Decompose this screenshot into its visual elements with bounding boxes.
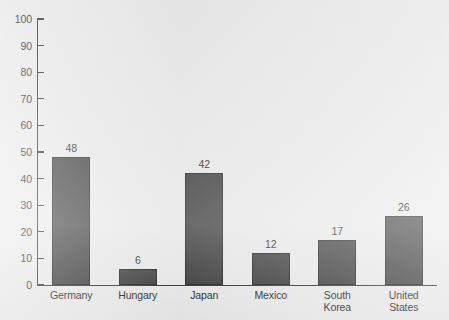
y-axis-tick: [38, 98, 44, 99]
x-axis-category-label: Mexico: [238, 290, 304, 302]
y-axis-tick-label: 30: [0, 200, 32, 211]
bar-value-label: 6: [113, 255, 163, 266]
y-axis-tick: [38, 125, 44, 126]
bar-value-label: 48: [46, 143, 96, 154]
y-axis-tick-label: 100: [0, 14, 32, 25]
y-axis-tick: [38, 178, 44, 179]
bar-value-label: 26: [379, 202, 429, 213]
y-axis-tick: [38, 258, 44, 259]
y-axis-tick-label: 10: [0, 253, 32, 264]
x-axis-category-label: United States: [371, 290, 437, 313]
x-axis-line: [37, 285, 437, 286]
bar-chart: 1009080706050403020100 48642121726 Germa…: [0, 0, 449, 320]
y-axis-tick-label: 50: [0, 147, 32, 158]
y-axis-tick: [38, 72, 44, 73]
bar: [318, 240, 356, 285]
y-axis-tick: [38, 284, 44, 285]
bar-value-label: 42: [179, 159, 229, 170]
bar-value-label: 17: [312, 226, 362, 237]
bar-value-label: 12: [246, 239, 296, 250]
bar: [252, 253, 290, 285]
bar: [119, 269, 157, 285]
bar: [52, 157, 90, 285]
y-axis-tick: [38, 45, 44, 46]
y-axis-tick-label: 20: [0, 227, 32, 238]
x-axis-category-label: Germany: [38, 290, 104, 302]
y-axis-tick: [38, 205, 44, 206]
y-axis-tick: [38, 18, 44, 19]
bar: [185, 173, 223, 285]
y-axis-tick-label: 40: [0, 174, 32, 185]
bar: [385, 216, 423, 285]
x-axis-category-label: Japan: [171, 290, 237, 302]
y-axis-tick-label: 0: [0, 280, 32, 291]
y-axis-tick-label: 80: [0, 67, 32, 78]
y-axis-tick-label: 90: [0, 41, 32, 52]
x-axis-category-label: South Korea: [304, 290, 370, 313]
x-axis-category-label: Hungary: [105, 290, 171, 302]
y-axis-tick: [38, 231, 44, 232]
y-axis-tick-label: 70: [0, 94, 32, 105]
y-axis-tick: [38, 151, 44, 152]
y-axis-tick-label: 60: [0, 120, 32, 131]
